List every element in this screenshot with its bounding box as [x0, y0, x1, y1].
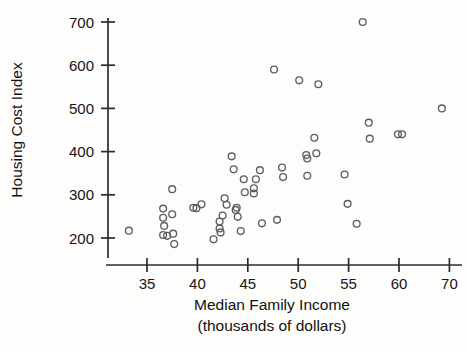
x-tick-label-35: 35 — [139, 275, 156, 292]
data-point — [198, 201, 205, 208]
data-point — [365, 119, 372, 126]
data-point — [311, 134, 318, 141]
x-tick-label-50: 50 — [290, 275, 307, 292]
y-tick-label-200: 200 — [69, 230, 94, 247]
x-tick-label-60: 60 — [391, 275, 408, 292]
x-axis-title: Median Family Income — [194, 296, 350, 313]
y-tick-label-300: 300 — [69, 186, 94, 203]
data-point — [438, 105, 445, 112]
data-point — [341, 171, 348, 178]
data-point — [271, 66, 278, 73]
x-tick-label-45: 45 — [239, 275, 256, 292]
data-point — [240, 176, 247, 183]
y-axis-title: Housing Cost Index — [8, 62, 25, 198]
y-tick-label-500: 500 — [69, 100, 94, 117]
data-point — [296, 77, 303, 84]
data-point — [257, 167, 264, 174]
y-tick-label-400: 400 — [69, 143, 94, 160]
data-point — [169, 211, 176, 218]
y-tick-label-700: 700 — [69, 14, 94, 31]
scatter-plot-figure: 35404550556070200300400500600700 Median … — [0, 0, 466, 353]
data-point — [359, 19, 366, 26]
data-point — [344, 200, 351, 207]
data-point — [161, 223, 168, 230]
x-tick-label-70: 70 — [441, 275, 458, 292]
data-point — [170, 230, 177, 237]
data-point — [160, 214, 167, 221]
data-point — [223, 201, 230, 208]
data-point — [171, 241, 178, 248]
data-point — [304, 172, 311, 179]
x-tick-label-40: 40 — [189, 275, 206, 292]
ticks-group — [101, 22, 449, 272]
data-point — [210, 236, 217, 243]
data-point — [259, 220, 266, 227]
data-point — [219, 212, 226, 219]
y-tick-label-600: 600 — [69, 57, 94, 74]
scatter-plot-svg: 35404550556070200300400500600700 Median … — [0, 0, 466, 353]
data-point — [169, 186, 176, 193]
data-point — [230, 166, 237, 173]
data-point — [274, 216, 281, 223]
data-point — [160, 205, 167, 212]
data-point — [313, 150, 320, 157]
data-point — [237, 228, 244, 235]
data-point — [241, 189, 248, 196]
data-point — [234, 213, 241, 220]
tick-labels-group: 35404550556070200300400500600700 — [69, 14, 458, 293]
axes-group — [106, 18, 462, 265]
data-point — [279, 164, 286, 171]
data-point — [366, 135, 373, 142]
axis-titles-group: Median Family Income(thousands of dollar… — [8, 62, 350, 334]
x-axis-title-units: (thousands of dollars) — [197, 317, 346, 334]
data-point — [315, 81, 322, 88]
data-point — [353, 220, 360, 227]
data-point — [221, 195, 228, 202]
data-point — [125, 227, 132, 234]
data-points-group — [125, 19, 445, 248]
data-point — [228, 153, 235, 160]
data-point — [252, 176, 259, 183]
x-tick-label-55: 55 — [340, 275, 357, 292]
data-point — [280, 174, 287, 181]
